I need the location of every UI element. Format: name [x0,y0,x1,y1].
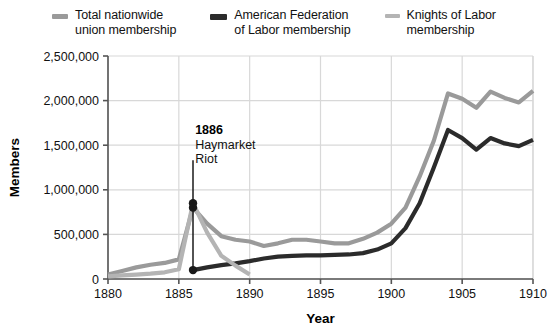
x-tick-label: 1910 [519,287,547,301]
annotation-body-line: Riot [195,152,218,166]
x-tick-label: 1890 [236,287,264,301]
x-tick-label: 1885 [165,287,193,301]
x-tick-label: 1905 [448,287,476,301]
y-tick-labels: 0500,0001,000,0001,500,0002,000,0002,500… [43,50,99,287]
annotation-body-line: Haymarket [195,138,256,152]
axis-lines [103,56,533,284]
x-axis-title: Year [306,311,335,326]
grid-lines [108,56,533,279]
union-membership-chart: Total nationwide union membership Americ… [0,0,548,330]
chart-annotations: 1886HaymarketRiot [193,123,256,270]
annotation-title: 1886 [195,123,223,137]
y-tick-label: 2,500,000 [43,50,99,64]
y-axis-title: Members [7,138,22,197]
y-tick-label: 1,500,000 [43,139,99,153]
x-tick-label: 1895 [307,287,335,301]
y-tick-label: 1,000,000 [43,183,99,197]
y-tick-label: 500,000 [54,228,99,242]
y-tick-label: 2,000,000 [43,94,99,108]
x-tick-label: 1900 [377,287,405,301]
x-tick-labels: 1880188518901895190019051910 [94,287,547,301]
x-tick-label: 1880 [94,287,122,301]
plot-area: 0500,0001,000,0001,500,0002,000,0002,500… [0,0,548,330]
y-tick-label: 0 [92,273,99,287]
